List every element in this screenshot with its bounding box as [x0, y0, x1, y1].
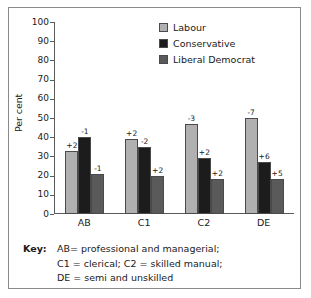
y-tick-label-40: 40	[23, 132, 49, 143]
key-line-3: DE = semi and unskilled	[57, 271, 295, 286]
y-tick-label-60: 60	[23, 93, 49, 104]
legend-swatch-liberal-democrat	[159, 55, 168, 64]
key-section: Key: AB= professional and managerial;C1 …	[9, 240, 300, 288]
key-line-1: AB= professional and managerial;	[57, 242, 295, 257]
y-tick-label-70: 70	[23, 74, 49, 85]
bar-c2-liberal-democrat	[211, 179, 224, 214]
y-tick-label-100: 100	[23, 17, 49, 28]
bar-c2-conservative	[198, 158, 211, 214]
y-tick-label-90: 90	[23, 36, 49, 47]
bar-annotation-ab-conservative: -1	[74, 128, 96, 136]
legend-label-labour: Labour	[173, 22, 206, 33]
legend-label-liberal-democrat: Liberal Democrat	[173, 54, 255, 65]
bar-annotation-c2-labour: -3	[180, 115, 202, 123]
bar-annotation-c2-liberal-democrat: +2	[206, 170, 228, 178]
y-tick-mark-0	[50, 214, 54, 215]
y-tick-label-0: 0	[23, 209, 49, 220]
key-lines: AB= professional and managerial;C1 = cle…	[57, 242, 295, 286]
legend-item-labour: Labour	[159, 20, 291, 35]
legend-item-liberal-democrat: Liberal Democrat	[159, 52, 291, 67]
x-tick-label-c1: C1	[114, 217, 174, 229]
y-tick-label-20: 20	[23, 170, 49, 181]
key-heading: Key:	[23, 242, 47, 256]
bar-de-labour	[245, 118, 258, 214]
x-tick-label-de: DE	[234, 217, 294, 229]
bar-group-ab: +2-1-1	[65, 22, 109, 214]
legend-label-conservative: Conservative	[173, 38, 235, 49]
legend-swatch-conservative	[159, 39, 168, 48]
legend-item-conservative: Conservative	[159, 36, 291, 51]
bar-ab-liberal-democrat	[91, 174, 104, 214]
bar-c2-labour	[185, 124, 198, 214]
chart-legend: LabourConservativeLiberal Democrat	[159, 20, 291, 68]
chart-plot-area: Per cent 0102030405060708090100 +2-1-1+2…	[9, 8, 300, 236]
bar-annotation-ab-liberal-democrat: -1	[87, 165, 109, 173]
key-line-2: C1 = clerical; C2 = skilled manual;	[57, 257, 295, 272]
bar-c1-labour	[125, 139, 138, 214]
bar-ab-conservative	[78, 137, 91, 214]
bar-ab-labour	[65, 151, 78, 214]
y-tick-label-50: 50	[23, 113, 49, 124]
bar-annotation-de-liberal-democrat: +5	[266, 170, 288, 178]
y-tick-label-80: 80	[23, 55, 49, 66]
x-tick-label-c2: C2	[174, 217, 234, 229]
chart-figure: Per cent 0102030405060708090100 +2-1-1+2…	[8, 7, 301, 289]
x-tick-label-ab: AB	[54, 217, 114, 229]
y-tick-label-10: 10	[23, 189, 49, 200]
bar-de-liberal-democrat	[271, 179, 284, 214]
legend-swatch-labour	[159, 23, 168, 32]
bar-annotation-c2-conservative: +2	[193, 149, 215, 157]
bar-annotation-c1-conservative: -2	[134, 138, 156, 146]
bar-annotation-de-conservative: +6	[253, 153, 275, 161]
bar-c1-liberal-democrat	[151, 176, 164, 214]
bar-c1-conservative	[138, 147, 151, 214]
y-tick-label-30: 30	[23, 151, 49, 162]
bar-annotation-de-labour: -7	[240, 109, 262, 117]
bar-annotation-c1-liberal-democrat: +2	[147, 167, 169, 175]
